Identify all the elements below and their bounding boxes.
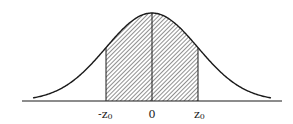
normal-curve-svg: -z0 0 z0 bbox=[0, 0, 293, 124]
label-zero: 0 bbox=[149, 108, 156, 121]
normal-curve-figure: -z0 0 z0 bbox=[0, 0, 293, 124]
label-neg-z0: -z0 bbox=[98, 108, 113, 121]
label-z0: z0 bbox=[194, 108, 205, 121]
